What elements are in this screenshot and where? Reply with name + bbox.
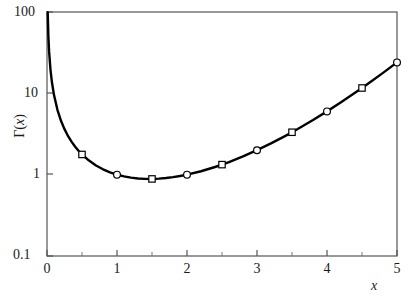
x-tick-label-0: 0 xyxy=(35,262,59,276)
data-point-square xyxy=(79,151,85,157)
x-tick-label-2: 2 xyxy=(175,262,199,276)
gamma-function-plot xyxy=(0,0,416,301)
data-point-square xyxy=(359,85,365,91)
data-point-circle xyxy=(324,108,331,115)
x-tick-label-3: 3 xyxy=(245,262,269,276)
x-tick-label-1: 1 xyxy=(105,262,129,276)
x-tick-label-4: 4 xyxy=(315,262,339,276)
axes-border xyxy=(47,12,397,256)
x-axis-title: x xyxy=(371,278,377,294)
data-point-square xyxy=(219,161,225,167)
data-point-circle xyxy=(114,171,121,178)
y-axis-title-variable: x xyxy=(12,119,27,125)
y-axis-title-paren: ) xyxy=(12,114,27,119)
figure-container: 100 10 1 0.1 0 1 2 3 4 5 x Γ(x) xyxy=(0,0,416,301)
x-tick-label-5: 5 xyxy=(385,262,409,276)
y-tick-label-100: 100 xyxy=(14,5,35,19)
y-tick-label-1: 1 xyxy=(33,167,40,181)
plot-frame xyxy=(47,12,397,256)
y-axis-title-gamma: Γ( xyxy=(12,125,27,138)
x-axis-minor-ticks xyxy=(82,252,362,256)
data-point-square xyxy=(149,176,155,182)
data-point-circle xyxy=(254,147,261,154)
y-tick-label-0point1: 0.1 xyxy=(13,248,31,262)
data-point-circle xyxy=(184,171,191,178)
data-point-markers xyxy=(79,59,401,182)
data-point-circle xyxy=(394,59,401,66)
data-point-square xyxy=(289,129,295,135)
y-axis-title: Γ(x) xyxy=(12,100,28,152)
gamma-curve xyxy=(48,12,397,179)
y-tick-label-10: 10 xyxy=(24,86,38,100)
